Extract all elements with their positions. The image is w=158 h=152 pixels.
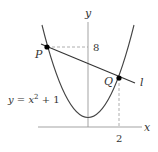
x-tick-label: 2 — [116, 133, 122, 144]
y-tick-label: 8 — [93, 42, 99, 53]
line-l-label: l — [140, 76, 144, 89]
point-Q-label: Q — [104, 75, 113, 88]
point-P-label: P — [34, 48, 43, 61]
point-Q — [116, 75, 121, 80]
curve-equation-label: y = x2 + 1 — [7, 93, 60, 105]
x-axis-label: x — [144, 121, 151, 134]
parabola-diagram: y x 8 2 P Q l y = x2 + 1 — [0, 0, 158, 152]
y-axis-label: y — [84, 7, 92, 20]
point-P — [44, 44, 49, 49]
